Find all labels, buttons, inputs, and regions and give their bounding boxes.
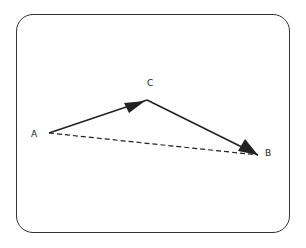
vector-diagram	[0, 0, 306, 248]
label-c: C	[147, 78, 153, 88]
arrowhead-a-c	[124, 101, 145, 113]
arrowhead-c-b	[238, 139, 258, 155]
label-b: B	[265, 148, 271, 158]
edge-a-b-dashed	[49, 133, 258, 155]
label-a: A	[31, 129, 37, 139]
